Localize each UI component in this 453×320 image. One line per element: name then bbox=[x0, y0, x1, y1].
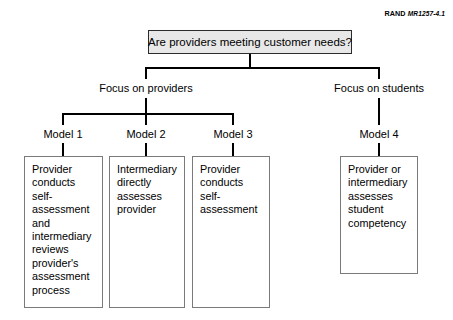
branch-label-focus-on-providers: Focus on providers bbox=[99, 82, 193, 94]
connector-leaf-stem-1 bbox=[62, 143, 64, 156]
model-label-4: Model 4 bbox=[359, 128, 398, 140]
description-box-model-3: Provider conducts self-assessment bbox=[192, 156, 270, 308]
description-box-model-2: Intermediary directly assesses provider bbox=[109, 156, 185, 308]
connector-leaf-stem-3 bbox=[232, 143, 234, 156]
description-box-model-4: Provider or intermediary assesses studen… bbox=[340, 156, 418, 274]
connector-branch-spine bbox=[145, 67, 380, 69]
connector-leaf-stem-4 bbox=[378, 143, 380, 156]
description-box-model-1: Provider conducts self-assessment and in… bbox=[24, 156, 103, 308]
description-text-model-3: Provider conducts self-assessment bbox=[200, 163, 263, 217]
connector-branch-drop-students bbox=[378, 67, 380, 79]
root-question-box: Are providers meeting customer needs? bbox=[148, 30, 352, 54]
description-text-model-2: Intermediary directly assesses provider bbox=[117, 163, 178, 217]
branch-label-focus-on-students: Focus on students bbox=[334, 82, 424, 94]
connector-model-drop-2 bbox=[145, 113, 147, 125]
root-question-label: Are providers meeting customer needs? bbox=[148, 36, 352, 48]
connector-leaf-stem-2 bbox=[145, 143, 147, 156]
rand-brand-label: RAND bbox=[384, 9, 405, 18]
diagram-canvas: RAND MR1257-4.1 Are providers meeting cu… bbox=[0, 0, 453, 320]
connector-students-stem bbox=[378, 98, 380, 125]
description-text-model-4: Provider or intermediary assesses studen… bbox=[348, 163, 411, 230]
model-label-2: Model 2 bbox=[126, 128, 165, 140]
connector-model-drop-1 bbox=[62, 113, 64, 125]
connector-models-spine bbox=[62, 113, 234, 115]
connector-providers-stem bbox=[145, 98, 147, 114]
document-id-label: MR1257-4.1 bbox=[408, 10, 445, 17]
connector-model-drop-3 bbox=[232, 113, 234, 125]
model-label-1: Model 1 bbox=[43, 128, 82, 140]
description-text-model-1: Provider conducts self-assessment and in… bbox=[32, 163, 96, 297]
connector-root-stem bbox=[249, 54, 251, 68]
model-label-3: Model 3 bbox=[213, 128, 252, 140]
connector-branch-drop-providers bbox=[145, 67, 147, 79]
source-credit: RAND MR1257-4.1 bbox=[384, 9, 445, 18]
